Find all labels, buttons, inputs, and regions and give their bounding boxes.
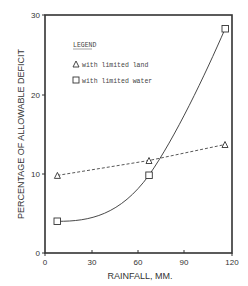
series-line-limited-land xyxy=(57,145,225,176)
square-marker-icon xyxy=(222,26,229,33)
x-tick-label: 60 xyxy=(134,258,143,267)
y-tick-label: 20 xyxy=(31,91,40,100)
y-tick-label: 10 xyxy=(31,170,40,179)
x-axis-title: RAINFALL, MM. xyxy=(107,271,172,281)
y-axis-title: PERCENTAGE OF ALLOWABLE DEFICIT xyxy=(16,48,26,219)
legend-label-water: with limited water xyxy=(82,78,152,85)
x-tick-label: 0 xyxy=(43,258,48,267)
y-tick-label: 30 xyxy=(31,11,40,20)
square-marker-icon xyxy=(54,218,61,225)
legend: LEGEND with limited land with limited wa… xyxy=(73,42,152,85)
triangle-marker-icon xyxy=(222,142,228,148)
x-tick-label: 90 xyxy=(180,258,189,267)
y-tick-label: 0 xyxy=(36,249,41,258)
square-marker-icon xyxy=(73,77,79,83)
chart: 0 10 20 30 0 30 60 90 120 RAINFALL, MM. … xyxy=(0,0,248,286)
series-line-limited-water xyxy=(57,29,225,221)
square-marker-icon xyxy=(146,172,153,179)
legend-title: LEGEND xyxy=(73,42,97,49)
x-tick-label: 120 xyxy=(225,258,239,267)
legend-label-land: with limited land xyxy=(82,62,148,69)
triangle-marker-icon xyxy=(73,61,79,67)
x-tick-label: 30 xyxy=(88,258,97,267)
plot-frame xyxy=(45,15,232,253)
